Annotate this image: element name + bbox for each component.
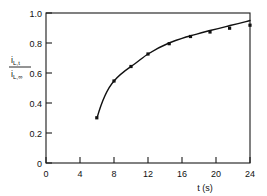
x-tick-label-8: 8 <box>111 169 116 179</box>
data-point-3 <box>146 52 149 55</box>
x-axis-title: t (s) <box>197 183 213 193</box>
y-axis-title: iL,t iL,∞ <box>9 55 31 80</box>
x-tick-label-16: 16 <box>177 169 187 179</box>
y-axis-title-numerator: iL,t <box>11 55 20 66</box>
plot-frame <box>46 13 250 163</box>
data-point-6 <box>208 30 211 33</box>
data-curve <box>97 21 250 119</box>
x-tick-label-4: 4 <box>77 169 82 179</box>
x-tick-label-20: 20 <box>211 169 221 179</box>
y-axis-title-denominator-subscript: L,∞ <box>13 73 23 80</box>
y-tick-label-0: 0 <box>37 159 42 169</box>
y-axis-title-denominator: iL,∞ <box>11 69 23 80</box>
y-axis-tick-labels: 1.0 0.8 0.6 0.4 0.2 0 <box>29 9 42 169</box>
data-point-0 <box>95 116 98 119</box>
data-point-1 <box>112 79 115 82</box>
x-tick-label-24: 24 <box>245 169 255 179</box>
x-tick-label-12: 12 <box>143 169 153 179</box>
data-point-2 <box>129 65 132 68</box>
y-tick-label-0.2: 0.2 <box>29 129 42 139</box>
data-point-8 <box>248 24 251 27</box>
y-axis-ticks <box>46 13 52 163</box>
x-axis-ticks <box>46 157 250 163</box>
y-tick-label-0.6: 0.6 <box>29 69 42 79</box>
data-point-5 <box>189 35 192 38</box>
x-axis-tick-labels: 0 4 8 12 16 20 24 <box>43 169 255 179</box>
y-tick-label-1.0: 1.0 <box>29 9 42 19</box>
y-tick-label-0.4: 0.4 <box>29 99 42 109</box>
chart-figure: 0 4 8 12 16 20 24 1.0 0.8 0.6 0.4 0.2 0 … <box>0 0 267 196</box>
y-tick-label-0.8: 0.8 <box>29 39 42 49</box>
x-tick-label-0: 0 <box>43 169 48 179</box>
data-point-7 <box>228 27 231 30</box>
y-axis-title-numerator-subscript: L,t <box>13 59 20 66</box>
chart-plot-svg: 0 4 8 12 16 20 24 1.0 0.8 0.6 0.4 0.2 0 … <box>0 0 267 196</box>
data-point-markers <box>95 24 251 120</box>
data-point-4 <box>168 42 171 45</box>
